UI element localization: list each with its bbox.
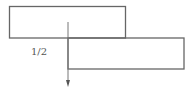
- arrow-down-icon: [66, 80, 70, 87]
- offset-blocks-diagram: [0, 0, 193, 102]
- offset-fraction-label: 1/2: [31, 47, 47, 57]
- lower-block: [68, 38, 184, 69]
